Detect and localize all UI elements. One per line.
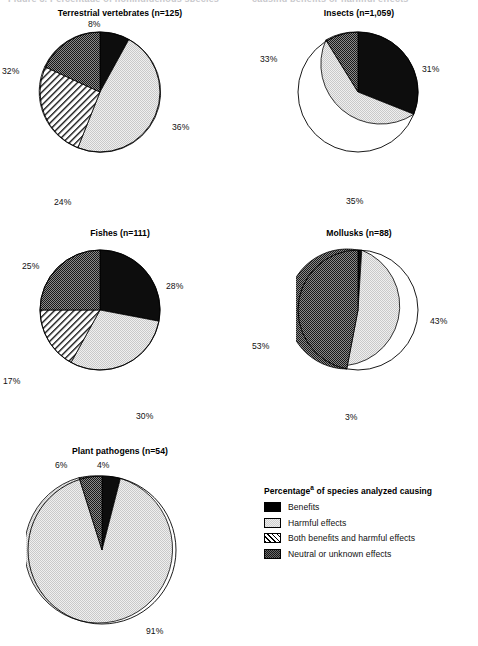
legend-title: Percentagea of species analyzed causing [264,484,474,496]
panel-fishes: Fishes (n=111) [0,228,240,433]
panel-insects: Insects (n=1,059) [240,8,478,220]
label-fishes-harmful: 30% [136,411,153,421]
legend-item-benefits: Benefits [264,502,474,513]
label-fishes-both: 17% [3,376,20,386]
pie-insects [296,30,420,154]
legend-label-neutral-effects: Neutral or unknown effects [288,549,391,559]
label-fishes-benefits: 28% [166,281,183,291]
panel-title-fishes: Fishes (n=111) [0,228,240,238]
clipped-header-text: Figure 3. Percentage of nonindigenous sp… [0,0,478,2]
clipped-header-right: causing benefits or harmful effects [252,0,409,2]
panel-title-terrestrial-vertebrates: Terrestrial vertebrates (n=125) [0,8,240,18]
label-terrestrial-neutral: 32% [2,66,19,76]
label-mollusks-both: 3% [345,412,358,422]
slice-neutral [40,250,100,310]
label-mollusks-neutral: 53% [252,341,269,351]
legend-label-harmful-effects: Harmful effects [288,518,346,528]
legend-item-both-effects: Both benefits and harmful effects [264,533,474,544]
label-terrestrial-harmful: 36% [172,122,189,132]
pie-plant-pathogens [26,474,178,626]
panel-title-plant-pathogens: Plant pathogens (n=54) [0,446,240,456]
label-mollusks-harmful: 43% [430,316,447,326]
legend-swatch-neutral-effects-icon [264,549,281,559]
panel-mollusks: Mollusks (n=88) [240,228,478,433]
legend-label-benefits: Benefits [288,502,319,512]
pie-terrestrial-vertebrates [38,30,162,154]
panel-terrestrial-vertebrates: Terrestrial vertebrates (n=125) [0,8,240,220]
label-insects-harmful: 35% [346,196,363,206]
legend-swatch-both-effects-icon [264,533,281,543]
pie-svg-terrestrial-vertebrates [38,30,162,154]
label-fishes-neutral: 25% [22,261,39,271]
clipped-header-left: Figure 3. Percentage of nonindigenous sp… [8,0,219,2]
panel-title-insects: Insects (n=1,059) [240,8,478,18]
label-plant-neutral: 6% [55,460,68,470]
pie-svg-mollusks [296,248,420,372]
slice-neutral [296,249,358,369]
legend-swatch-benefits-icon [264,502,281,512]
label-terrestrial-benefits: 8% [88,19,101,29]
legend: Percentagea of species analyzed causing … [264,484,474,564]
panel-plant-pathogens: Plant pathogens (n=54) [0,446,240,646]
pie-fishes [38,248,162,372]
legend-label-both-effects: Both benefits and harmful effects [288,533,415,543]
label-plant-benefits: 4% [97,460,110,470]
pie-svg-plant-pathogens [26,474,178,626]
label-terrestrial-both: 24% [54,197,71,207]
legend-title-rest: of species analyzed causing [314,486,432,496]
legend-title-main: Percentage [264,486,310,496]
pie-chart-figure: Figure 3. Percentage of nonindigenous sp… [0,0,478,646]
legend-swatch-harmful-effects-icon [264,518,281,528]
legend-item-neutral-effects: Neutral or unknown effects [264,548,474,559]
pie-mollusks [296,248,420,372]
slice-benefits [100,250,160,321]
panel-title-mollusks: Mollusks (n=88) [240,228,478,238]
label-insects-benefits: 31% [422,64,439,74]
pie-svg-fishes [38,248,162,372]
legend-item-harmful-effects: Harmful effects [264,517,474,528]
label-insects-neutral: 33% [260,54,277,64]
label-plant-harmful: 91% [146,626,163,636]
pie-svg-insects [296,30,420,154]
